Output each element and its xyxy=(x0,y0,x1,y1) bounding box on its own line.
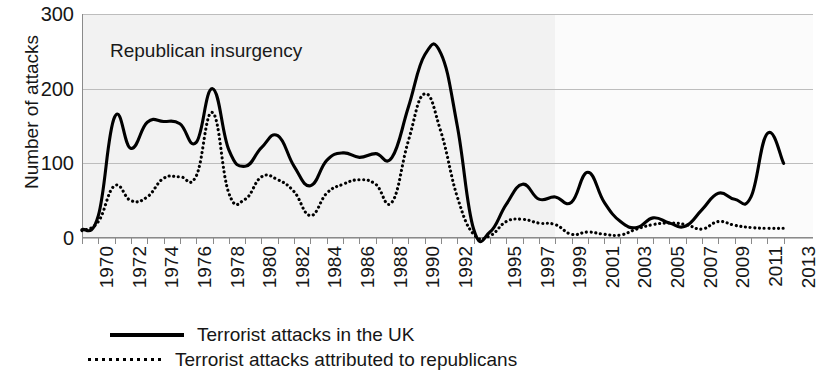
plot-area: Republican insurgency xyxy=(82,14,813,238)
x-tick-label-1997: 1997 xyxy=(538,246,557,288)
x-tick-1972 xyxy=(115,238,116,244)
series-line-republicans xyxy=(82,94,784,240)
cropped-title-sliver xyxy=(60,0,580,3)
chart-legend: Terrorist attacks in the UK Terrorist at… xyxy=(0,322,825,372)
x-tick-2008 xyxy=(702,238,703,244)
x-tick-1981 xyxy=(261,238,262,244)
x-tick-label-1972: 1972 xyxy=(130,246,149,288)
x-tick-label-1992: 1992 xyxy=(456,246,475,288)
x-tick-1977 xyxy=(196,238,197,244)
x-tick-label-2011: 2011 xyxy=(766,246,785,287)
x-tick-1992 xyxy=(441,238,442,244)
x-tick-1989 xyxy=(392,238,393,244)
x-tick-1982 xyxy=(278,238,279,244)
x-tick-1986 xyxy=(343,238,344,244)
x-tick-1980 xyxy=(245,238,246,244)
x-tick-1995 xyxy=(490,238,491,244)
x-tick-2012 xyxy=(767,238,768,244)
legend-label-uk: Terrorist attacks in the UK xyxy=(197,324,415,346)
x-tick-label-2013: 2013 xyxy=(799,246,818,288)
x-tick-2002 xyxy=(604,238,605,244)
x-tick-1971 xyxy=(98,238,99,244)
x-tick-1999 xyxy=(555,238,556,244)
x-tick-label-2009: 2009 xyxy=(733,246,752,288)
x-tick-1985 xyxy=(327,238,328,244)
chart-figure: Number of attacks 0100200300 Republican … xyxy=(0,0,825,372)
x-tick-1973 xyxy=(131,238,132,244)
legend-item-uk: Terrorist attacks in the UK xyxy=(0,322,825,347)
x-tick-2003 xyxy=(620,238,621,244)
x-tick-2010 xyxy=(735,238,736,244)
series-canvas xyxy=(82,14,813,238)
x-tick-label-1976: 1976 xyxy=(195,246,214,288)
x-tick-1990 xyxy=(408,238,409,244)
x-tick-label-1974: 1974 xyxy=(162,246,181,288)
x-tick-1975 xyxy=(164,238,165,244)
y-tick-label-100: 100 xyxy=(28,153,74,173)
legend-item-republicans: Terrorist attacks attributed to republic… xyxy=(0,347,825,372)
x-tick-label-1970: 1970 xyxy=(97,246,116,288)
x-tick-2005 xyxy=(653,238,654,244)
x-tick-label-1988: 1988 xyxy=(391,246,410,288)
x-tick-2001 xyxy=(588,238,589,244)
x-tick-1978 xyxy=(213,238,214,244)
x-tick-2000 xyxy=(572,238,573,244)
x-tick-label-1984: 1984 xyxy=(325,246,344,288)
x-tick-1979 xyxy=(229,238,230,244)
x-tick-label-2003: 2003 xyxy=(635,246,654,288)
x-tick-label-1990: 1990 xyxy=(423,246,442,288)
x-tick-label-1980: 1980 xyxy=(260,246,279,288)
x-tick-1996 xyxy=(506,238,507,244)
y-tick-label-group: 0100200300 xyxy=(24,0,74,250)
x-tick-1993 xyxy=(457,238,458,244)
x-tick-label-1978: 1978 xyxy=(228,246,247,288)
series-line-uk xyxy=(82,44,784,242)
x-tick-2009 xyxy=(718,238,719,244)
legend-key-solid-icon xyxy=(110,329,184,341)
x-tick-label-1982: 1982 xyxy=(293,246,312,288)
x-tick-1976 xyxy=(180,238,181,244)
legend-label-republicans: Terrorist attacks attributed to republic… xyxy=(175,349,517,371)
x-tick-1983 xyxy=(294,238,295,244)
x-tick-1998 xyxy=(539,238,540,244)
x-tick-group xyxy=(82,238,813,245)
x-tick-1991 xyxy=(425,238,426,244)
x-tick-2011 xyxy=(751,238,752,244)
x-tick-1984 xyxy=(310,238,311,244)
x-tick-2006 xyxy=(669,238,670,244)
x-tick-label-2001: 2001 xyxy=(603,246,622,288)
x-tick-1988 xyxy=(376,238,377,244)
y-tick-label-0: 0 xyxy=(28,228,74,248)
x-tick-label-1986: 1986 xyxy=(358,246,377,288)
y-tick-label-200: 200 xyxy=(28,79,74,99)
x-tick-1997 xyxy=(523,238,524,244)
x-tick-label-1999: 1999 xyxy=(570,246,589,288)
x-tick-2013 xyxy=(784,238,785,244)
y-tick-label-300: 300 xyxy=(28,4,74,24)
x-tick-label-2005: 2005 xyxy=(668,246,687,288)
x-tick-label-group: 1970197219741976197819801982198419861988… xyxy=(82,246,813,310)
x-tick-label-1995: 1995 xyxy=(505,246,524,288)
x-tick-1970 xyxy=(82,238,83,244)
x-tick-2007 xyxy=(686,238,687,244)
x-tick-1987 xyxy=(359,238,360,244)
x-tick-label-2007: 2007 xyxy=(701,246,720,288)
x-tick-2004 xyxy=(637,238,638,244)
x-tick-1994 xyxy=(474,238,475,244)
legend-key-dotted-icon xyxy=(88,354,162,366)
x-tick-1974 xyxy=(147,238,148,244)
